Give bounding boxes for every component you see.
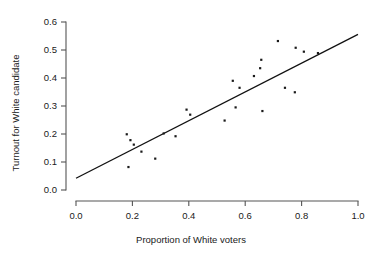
data-point: [154, 158, 156, 160]
data-point: [185, 109, 187, 111]
regression-line-group: [76, 34, 358, 178]
data-point: [253, 75, 255, 77]
data-point: [295, 47, 297, 49]
data-point: [232, 80, 234, 82]
y-tick-label: 0.5: [44, 44, 57, 55]
x-tick-label: 0.4: [182, 210, 195, 221]
x-tick-label: 0.2: [126, 210, 139, 221]
y-tick-label: 0.4: [44, 72, 57, 83]
data-point: [294, 91, 296, 93]
scatter-plot-figure: 0.00.10.20.30.40.50.6 0.00.20.40.60.81.0…: [0, 0, 383, 257]
data-point: [259, 67, 261, 69]
x-axis-ticks: 0.00.20.40.60.81.0: [69, 201, 364, 221]
x-tick-label: 0.6: [239, 210, 252, 221]
y-axis-title: Turnout for White candidate: [10, 55, 21, 172]
data-point: [224, 119, 226, 121]
data-point: [277, 40, 279, 42]
y-tick-label: 0.3: [44, 100, 57, 111]
data-point: [261, 110, 263, 112]
y-tick-label: 0.1: [44, 156, 57, 167]
data-point: [317, 52, 319, 54]
plot-canvas: 0.00.10.20.30.40.50.6 0.00.20.40.60.81.0…: [0, 0, 383, 257]
regression-line: [76, 34, 358, 178]
data-point: [260, 59, 262, 61]
data-point: [126, 133, 128, 135]
data-point: [174, 135, 176, 137]
x-axis-title: Proportion of White voters: [136, 234, 246, 245]
data-point: [235, 106, 237, 108]
data-point: [133, 144, 135, 146]
y-tick-label: 0.0: [44, 184, 57, 195]
y-tick-label: 0.2: [44, 128, 57, 139]
x-tick-label: 0.8: [295, 210, 308, 221]
data-point: [284, 87, 286, 89]
data-point: [189, 114, 191, 116]
x-tick-label: 1.0: [351, 210, 364, 221]
y-axis-ticks: 0.00.10.20.30.40.50.6: [44, 16, 66, 195]
data-point: [129, 139, 131, 141]
data-point: [238, 87, 240, 89]
x-tick-label: 0.0: [69, 210, 82, 221]
data-point: [127, 166, 129, 168]
y-tick-label: 0.6: [44, 16, 57, 27]
data-point: [140, 151, 142, 153]
data-point: [303, 51, 305, 53]
data-point: [163, 132, 165, 134]
